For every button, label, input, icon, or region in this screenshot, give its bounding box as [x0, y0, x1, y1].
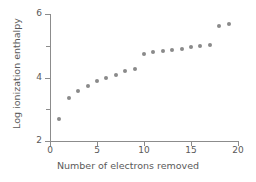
data-point [104, 76, 108, 80]
data-point [189, 45, 193, 49]
data-point [170, 48, 174, 52]
x-tick-label: 0 [40, 145, 60, 155]
data-point [180, 47, 184, 51]
data-point [217, 24, 221, 28]
data-point [133, 67, 137, 71]
x-axis-title: Number of electrons removed [0, 160, 256, 171]
data-point [95, 79, 99, 83]
data-point [208, 43, 212, 47]
data-point [67, 96, 71, 100]
data-point [151, 50, 155, 54]
data-point [142, 52, 146, 56]
x-tick-label: 15 [181, 145, 201, 155]
data-point [227, 22, 231, 26]
x-tick-label: 10 [134, 145, 154, 155]
data-point [123, 69, 127, 73]
y-tick-label: 4 [28, 73, 42, 82]
plot-area [50, 14, 238, 141]
x-tick-label: 20 [228, 145, 248, 155]
x-tick-label: 5 [87, 145, 107, 155]
data-point [76, 89, 80, 93]
data-point [114, 73, 118, 77]
data-point [86, 84, 90, 88]
y-tick-label: 6 [28, 9, 42, 18]
data-point [161, 49, 165, 53]
chart-figure: 246 05101520 Number of electrons removed… [0, 0, 256, 182]
data-point [57, 117, 61, 121]
y-tick-label: 2 [28, 136, 42, 145]
data-point [198, 44, 202, 48]
y-axis-title: Log ionization enthalpy [11, 14, 22, 134]
